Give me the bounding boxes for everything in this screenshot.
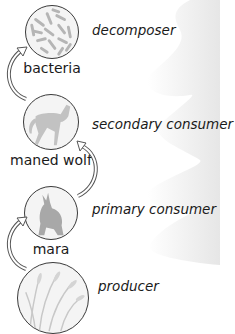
arrow-producer-to-mara [2, 214, 32, 272]
mara-icon [25, 187, 77, 239]
bacteria-circle [25, 5, 79, 59]
producer-circle [17, 262, 89, 334]
role-producer: producer [98, 278, 159, 294]
maned-wolf-circle [23, 94, 79, 150]
arrow-wolf-to-bacteria [2, 44, 32, 102]
role-secondary-consumer: secondary consumer [92, 116, 233, 132]
arrow-mara-to-wolf [74, 138, 104, 200]
grass-icon [18, 263, 88, 333]
bacteria-icon [26, 6, 78, 58]
role-decomposer: decomposer [92, 22, 175, 38]
role-primary-consumer: primary consumer [92, 201, 216, 217]
mara-circle [24, 186, 78, 240]
maned-wolf-icon [24, 95, 78, 149]
